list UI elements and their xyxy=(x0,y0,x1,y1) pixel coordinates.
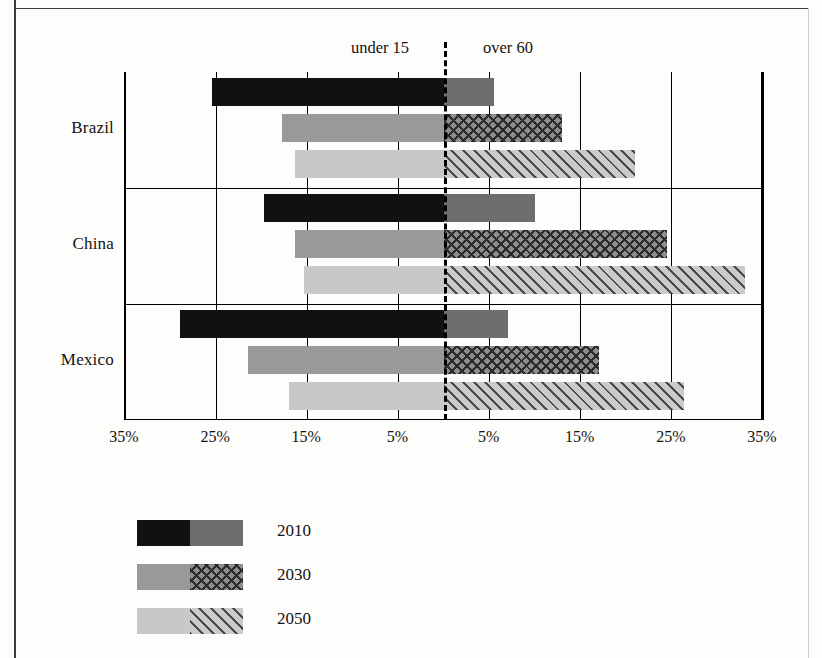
bar-mexico-2010-under15 xyxy=(180,310,444,338)
legend-label: 2030 xyxy=(277,565,311,585)
legend-swatch-under15 xyxy=(137,520,190,546)
page-border-right xyxy=(808,8,809,658)
bar-china-2050-over60 xyxy=(444,266,745,294)
bar-mexico-2030-over60 xyxy=(444,346,599,374)
bar-china-2010-over60 xyxy=(444,194,535,222)
legend-swatch-over60 xyxy=(190,520,243,546)
bar-china-2030-under15 xyxy=(295,230,444,258)
bar-brazil-2050-over60 xyxy=(444,150,635,178)
x-tick-label: 35% xyxy=(94,428,154,446)
region-label-over-60: over 60 xyxy=(453,38,563,58)
region-label-under-15: under 15 xyxy=(325,38,435,58)
bar-china-2010-under15 xyxy=(264,194,444,222)
zero-axis-dashed-line xyxy=(444,42,447,420)
category-label-brazil: Brazil xyxy=(22,118,114,138)
bar-china-2030-over60 xyxy=(444,230,667,258)
x-tick-label: 5% xyxy=(367,428,427,446)
legend-swatch-over60 xyxy=(190,608,243,634)
category-label-mexico: Mexico xyxy=(22,350,114,370)
bar-mexico-2030-under15 xyxy=(248,346,444,374)
bar-brazil-2050-under15 xyxy=(295,150,444,178)
x-tick-label: 25% xyxy=(641,428,701,446)
x-tick-label: 5% xyxy=(459,428,519,446)
gridline xyxy=(216,72,217,420)
legend-swatch-under15 xyxy=(137,564,190,590)
x-tick-label: 15% xyxy=(276,428,336,446)
page-border-left xyxy=(14,0,16,658)
page-border-top xyxy=(14,8,809,9)
legend-swatch-over60 xyxy=(190,564,243,590)
plot-area xyxy=(124,72,762,420)
bar-china-2050-under15 xyxy=(304,266,444,294)
bar-brazil-2010-under15 xyxy=(212,78,444,106)
x-tick-label: 35% xyxy=(732,428,792,446)
bar-brazil-2010-over60 xyxy=(444,78,494,106)
bar-mexico-2050-over60 xyxy=(444,382,684,410)
chart-figure: under 15 over 60 Brazil China Mexico 35%… xyxy=(0,0,822,658)
gridline xyxy=(124,72,126,420)
x-tick-label: 25% xyxy=(185,428,245,446)
bar-brazil-2030-under15 xyxy=(282,114,444,142)
bar-mexico-2050-under15 xyxy=(289,382,444,410)
gridline xyxy=(671,72,672,420)
legend-swatch-under15 xyxy=(137,608,190,634)
category-label-china: China xyxy=(22,234,114,254)
bar-brazil-2030-over60 xyxy=(444,114,562,142)
x-tick-label: 15% xyxy=(550,428,610,446)
bar-mexico-2010-over60 xyxy=(444,310,508,338)
legend-label: 2050 xyxy=(277,609,311,629)
legend-label: 2010 xyxy=(277,521,311,541)
gridline xyxy=(762,72,764,420)
